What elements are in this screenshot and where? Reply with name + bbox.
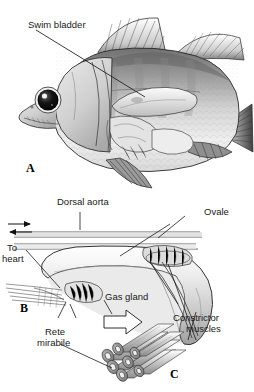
panel-letter-b: B — [20, 301, 28, 316]
label-dorsal-aorta: Dorsal aorta — [57, 196, 109, 207]
label-to-heart-line1: To — [7, 242, 17, 253]
panel-letter-a: A — [26, 161, 35, 176]
label-constrictor-line2: muscles — [186, 323, 221, 334]
label-gas-gland: Gas gland — [105, 291, 148, 302]
panel-letter-c: C — [170, 367, 179, 382]
figure-root: Swim bladder A — [0, 0, 254, 392]
label-rete-line1: Rete — [45, 326, 65, 337]
label-rete-line2: mirabile — [37, 337, 70, 348]
panel-c-rete-bundle — [60, 324, 186, 383]
label-swim-bladder: Swim bladder — [28, 19, 86, 30]
label-ovale: Ovale — [204, 206, 229, 217]
label-constrictor-line1: Constrictor — [173, 312, 219, 323]
label-to-heart-line2: heart — [2, 253, 24, 264]
leader-rete-2 — [70, 304, 76, 318]
fish-eye — [35, 87, 61, 113]
